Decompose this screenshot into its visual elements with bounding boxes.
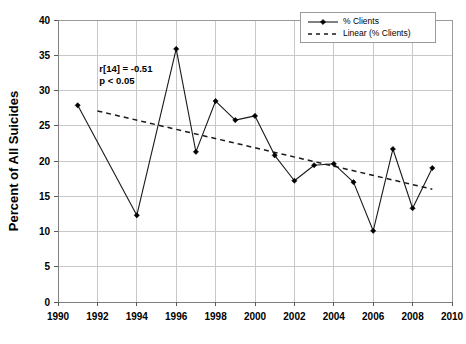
y-tick-label: 10: [39, 226, 51, 237]
y-tick-label: 25: [39, 120, 51, 131]
x-tick-label: 1990: [47, 311, 70, 322]
x-tick-label: 2010: [441, 311, 464, 322]
annotation-correlation: r[14] = -0.51: [99, 63, 153, 74]
y-tick-label: 30: [39, 85, 51, 96]
y-tick-label: 0: [44, 297, 50, 308]
legend-label-trendline: Linear (% Clients): [343, 28, 411, 38]
y-tick-label: 20: [39, 156, 51, 167]
chart-container: 0510152025303540 19901992199419961998200…: [0, 0, 466, 344]
legend-label-clients: % Clients: [343, 16, 379, 26]
y-axis-title: Percent of All Suicides: [6, 91, 21, 231]
x-tick-label: 2000: [244, 311, 267, 322]
x-tick-label: 1996: [165, 311, 188, 322]
line-chart: 0510152025303540 19901992199419961998200…: [0, 0, 466, 344]
chart-legend: % ClientsLinear (% Clients): [300, 12, 435, 42]
x-tick-label: 2004: [323, 311, 346, 322]
y-tick-label: 15: [39, 191, 51, 202]
x-tick-label: 1994: [126, 311, 149, 322]
x-tick-label: 1998: [204, 311, 227, 322]
x-tick-label: 2006: [362, 311, 385, 322]
annotation-significance: p < 0.05: [99, 75, 135, 86]
x-tick-label: 2008: [401, 311, 424, 322]
x-tick-label: 2002: [283, 311, 306, 322]
y-tick-label: 5: [44, 261, 50, 272]
y-tick-label: 35: [39, 50, 51, 61]
x-tick-label: 1992: [86, 311, 109, 322]
y-tick-label: 40: [39, 15, 51, 26]
chart-background: [0, 0, 466, 344]
